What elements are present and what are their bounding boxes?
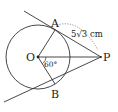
label-tangent-length: 5√3 cm	[71, 29, 103, 39]
center-point-o	[37, 56, 40, 59]
point-p	[100, 56, 102, 58]
label-p: P	[103, 51, 111, 64]
label-angle-aop: 60°	[44, 60, 58, 69]
radius-oa	[38, 30, 55, 57]
label-b: B	[51, 88, 59, 101]
label-a: A	[50, 17, 60, 30]
label-o: O	[26, 51, 35, 64]
geometry-diagram: A B O P 5√3 cm 60°	[0, 0, 118, 112]
